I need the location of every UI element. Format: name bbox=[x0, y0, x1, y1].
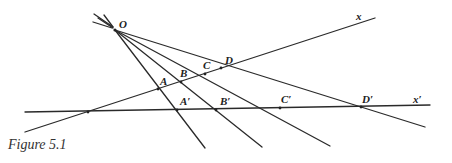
label-x: x bbox=[355, 10, 362, 22]
label-A-prime: A′ bbox=[179, 95, 190, 107]
ray-OB bbox=[115, 30, 262, 147]
point-B-prime bbox=[215, 109, 218, 112]
figure-diagram: O x x′ A B C D A′ B′ C′ D′ bbox=[0, 0, 452, 163]
point-B bbox=[180, 81, 183, 84]
label-C: C bbox=[203, 59, 211, 71]
ray-OA bbox=[115, 30, 205, 148]
point-D-prime bbox=[360, 106, 363, 109]
label-A: A bbox=[159, 75, 167, 87]
label-D: D bbox=[224, 54, 233, 66]
point-D bbox=[220, 67, 223, 70]
point-C bbox=[204, 73, 207, 76]
label-B: B bbox=[179, 67, 187, 79]
label-B-prime: B′ bbox=[219, 95, 230, 107]
point-C-prime bbox=[279, 107, 282, 110]
label-D-prime: D′ bbox=[361, 93, 373, 105]
line-x bbox=[25, 18, 375, 132]
figure-caption: Figure 5.1 bbox=[8, 137, 67, 153]
point-vertex bbox=[87, 111, 90, 114]
point-A bbox=[157, 88, 160, 91]
label-C-prime: C′ bbox=[281, 93, 291, 105]
point-O bbox=[113, 28, 116, 31]
ray-OC bbox=[115, 30, 330, 146]
label-O: O bbox=[119, 18, 127, 30]
point-A-prime bbox=[176, 109, 179, 112]
label-x-prime: x′ bbox=[412, 93, 422, 105]
